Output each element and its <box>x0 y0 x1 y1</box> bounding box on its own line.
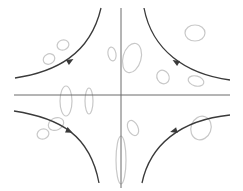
blob-outline <box>46 115 66 133</box>
blob-outline <box>85 88 93 114</box>
trajectory-top-right <box>144 8 230 80</box>
saddle-phase-portrait <box>0 0 243 191</box>
blob-outline <box>125 119 141 138</box>
blob-outline <box>41 52 56 67</box>
blob-outline <box>187 74 205 88</box>
blob-outline <box>36 127 51 141</box>
blob-outline <box>60 86 72 116</box>
trajectory-bottom-left <box>14 111 99 183</box>
blob-outline <box>56 38 71 52</box>
blob-group <box>36 25 215 184</box>
blob-outline <box>107 46 117 61</box>
blob-outline <box>119 41 144 75</box>
blob-outline <box>185 25 205 41</box>
blob-outline <box>154 68 171 86</box>
trajectory-bottom-right <box>142 115 230 183</box>
